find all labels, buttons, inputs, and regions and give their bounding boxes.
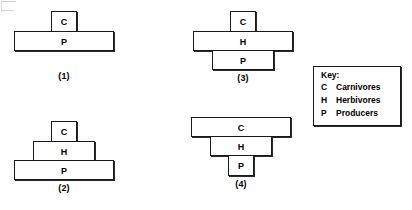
pyramid-level-carnivores: C: [51, 11, 77, 32]
legend-entry-producers: P Producers: [321, 109, 400, 118]
level-symbol: C: [61, 18, 68, 27]
legend-label: Carnivores: [336, 83, 380, 92]
pyramid-level-producers: P: [212, 50, 274, 70]
pyramid-figure-4: C H P (4): [191, 117, 291, 199]
legend-title: Key:: [321, 71, 400, 80]
legend-symbol: H: [321, 96, 336, 105]
pyramid-level-herbivores: H: [193, 31, 293, 51]
level-symbol: P: [240, 56, 246, 65]
legend-entry-carnivores: C Carnivores: [321, 83, 400, 92]
level-symbol: H: [61, 147, 68, 156]
legend-symbol: C: [321, 83, 336, 92]
pyramid-level-herbivores: H: [210, 136, 272, 156]
pyramid-level-carnivores: C: [51, 121, 77, 142]
pyramid-levels: C H P: [14, 121, 114, 182]
legend-symbol: P: [321, 109, 336, 118]
pyramid-figure-3: C H P (3): [193, 11, 293, 93]
pyramid-level-producers: P: [228, 155, 254, 176]
pyramid-levels: C P: [14, 11, 114, 52]
figure-caption: (1): [14, 71, 114, 81]
level-symbol: C: [238, 123, 245, 132]
figure-caption: (4): [191, 179, 291, 189]
pyramid-level-carnivores: C: [191, 117, 291, 137]
diagram-canvas: C P (1) C H P (2) C: [0, 0, 412, 210]
level-symbol: C: [240, 18, 247, 27]
pyramid-level-carnivores: C: [230, 11, 256, 32]
pyramid-levels: C H P: [193, 11, 293, 72]
pyramid-figure-1: C P (1): [14, 11, 114, 86]
level-symbol: P: [238, 162, 244, 171]
pyramid-level-producers: P: [14, 31, 114, 51]
pyramid-level-herbivores: H: [33, 141, 95, 161]
pyramid-level-producers: P: [14, 160, 114, 180]
level-symbol: C: [61, 128, 68, 137]
level-symbol: H: [240, 37, 247, 46]
legend-label: Producers: [336, 109, 378, 118]
level-symbol: P: [61, 37, 67, 46]
pyramid-levels: C H P: [191, 117, 291, 178]
legend-entry-herbivores: H Herbivores: [321, 96, 400, 105]
legend-key-box: Key: C Carnivores H Herbivores P Produce…: [313, 66, 401, 126]
level-symbol: H: [238, 142, 245, 151]
level-symbol: P: [61, 166, 67, 175]
pyramid-figure-2: C H P (2): [14, 121, 114, 203]
legend-label: Herbivores: [336, 96, 380, 105]
figure-caption: (3): [193, 73, 293, 83]
figure-caption: (2): [14, 183, 114, 193]
